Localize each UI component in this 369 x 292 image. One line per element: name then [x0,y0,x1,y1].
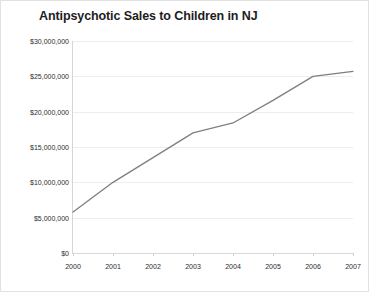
chart-card: Antipsychotic Sales to Children in NJ $0… [0,0,369,292]
series-line-antipsychotic-sales [1,1,369,292]
